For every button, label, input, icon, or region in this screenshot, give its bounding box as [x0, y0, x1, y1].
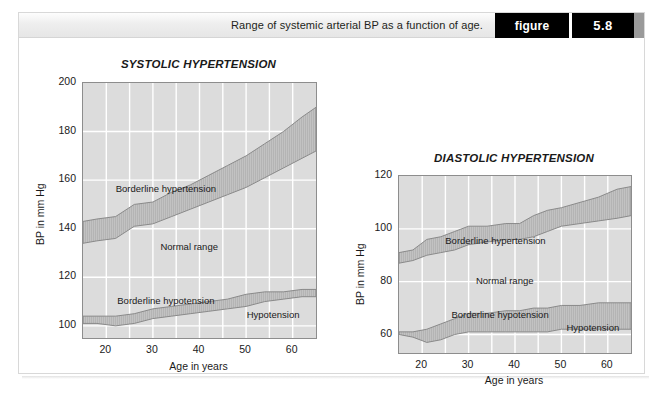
systolic-xtick-20: 20 — [90, 343, 120, 355]
diastolic-annotation-0: Borderline hypertension — [445, 235, 545, 246]
diastolic-ytick-100: 100 — [358, 221, 392, 233]
diastolic-xtick-60: 60 — [592, 358, 622, 370]
systolic-xtick-50: 50 — [230, 343, 260, 355]
systolic-annotation-1: Normal range — [160, 241, 218, 252]
systolic-ytick-120: 120 — [42, 269, 76, 281]
diastolic-xtick-50: 50 — [545, 358, 575, 370]
systolic-ytick-200: 200 — [42, 75, 76, 87]
systolic-xtick-60: 60 — [277, 343, 307, 355]
chart-systolic: SYSTOLIC HYPERTENSION BP in mm Hg Age in… — [0, 0, 330, 398]
systolic-annotation-3: Hypotension — [247, 309, 300, 320]
diastolic-annotation-2: Borderline hypotension — [451, 309, 548, 320]
chart-systolic-ylabel: BP in mm Hg — [34, 183, 46, 245]
systolic-xtick-30: 30 — [137, 343, 167, 355]
diastolic-ytick-120: 120 — [358, 168, 392, 180]
diastolic-xtick-20: 20 — [406, 358, 436, 370]
systolic-ytick-140: 140 — [42, 221, 76, 233]
diastolic-ytick-60: 60 — [358, 327, 392, 339]
chart-systolic-title: SYSTOLIC HYPERTENSION — [82, 58, 315, 70]
systolic-annotation-0: Borderline hypertension — [116, 183, 216, 194]
chart-diastolic: DIASTOLIC HYPERTENSION BP in mm Hg Age i… — [330, 0, 660, 398]
figure-page: Range of systemic arterial BP as a funct… — [0, 0, 660, 398]
systolic-ytick-160: 160 — [42, 172, 76, 184]
diastolic-annotation-1: Normal range — [476, 275, 534, 286]
diastolic-annotation-3: Hypotension — [566, 322, 619, 333]
systolic-xtick-40: 40 — [184, 343, 214, 355]
systolic-annotation-2: Borderline hypotension — [117, 295, 214, 306]
chart-diastolic-xlabel: Age in years — [398, 374, 630, 386]
diastolic-ytick-80: 80 — [358, 274, 392, 286]
diastolic-xtick-40: 40 — [499, 358, 529, 370]
chart-diastolic-title: DIASTOLIC HYPERTENSION — [398, 152, 630, 164]
diastolic-xtick-30: 30 — [453, 358, 483, 370]
systolic-ytick-180: 180 — [42, 124, 76, 136]
systolic-ytick-100: 100 — [42, 318, 76, 330]
chart-systolic-xlabel: Age in years — [82, 360, 315, 372]
